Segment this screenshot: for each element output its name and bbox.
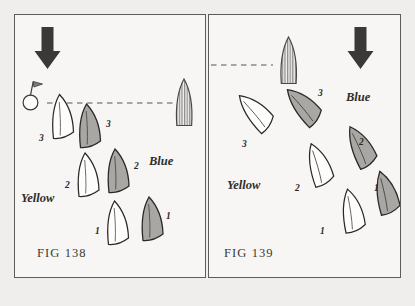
blue-boat-1-number: 1 xyxy=(166,211,171,221)
yellow-boat-2 xyxy=(78,153,99,197)
blue-boat-2-number: 2 xyxy=(359,137,364,147)
blue-team-label: Blue xyxy=(346,90,370,105)
yellow-boat-1 xyxy=(341,188,366,234)
yellow-boat-1 xyxy=(108,201,129,245)
yellow-boat-3-number: 3 xyxy=(39,133,44,143)
figure-panel-138: 3 3 2 2 1 1 Blue Yellow FIG 138 xyxy=(14,14,206,278)
yellow-boat-3-number: 3 xyxy=(242,139,247,149)
wind-direction-arrow xyxy=(35,27,61,69)
yellow-boat-1-number: 1 xyxy=(95,226,100,236)
mark-buoy xyxy=(23,82,42,110)
blue-boat-2 xyxy=(108,149,129,193)
figure-139-artwork xyxy=(209,15,400,277)
blue-boat-3-number: 3 xyxy=(106,119,111,129)
blue-team-label: Blue xyxy=(149,154,173,169)
yellow-team-label: Yellow xyxy=(21,191,54,206)
yellow-boat-1-number: 1 xyxy=(320,226,325,236)
blue-boat-3 xyxy=(80,104,101,148)
blue-boat-1 xyxy=(142,197,163,241)
figure-139-caption: FIG 139 xyxy=(224,246,274,261)
wind-direction-arrow xyxy=(348,27,374,69)
figure-138-caption: FIG 138 xyxy=(37,246,87,261)
yellow-boat-3 xyxy=(234,87,277,134)
figure-panel-139: 3 3 2 2 1 1 Blue Yellow FIG 139 xyxy=(208,14,401,278)
figure-138-artwork xyxy=(15,15,205,277)
committee-boat xyxy=(176,79,192,126)
committee-boat xyxy=(281,37,297,84)
yellow-team-label: Yellow xyxy=(227,178,260,193)
diagram-page: 3 3 2 2 1 1 Blue Yellow FIG 138 xyxy=(0,0,415,306)
blue-boat-2-number: 2 xyxy=(134,161,139,171)
yellow-boat-2 xyxy=(305,140,336,187)
yellow-boat-3 xyxy=(53,95,74,139)
blue-boat-1-number: 1 xyxy=(374,183,379,193)
yellow-boat-2-number: 2 xyxy=(295,183,300,193)
blue-boat-3-number: 3 xyxy=(318,88,323,98)
yellow-boat-2-number: 2 xyxy=(65,180,70,190)
